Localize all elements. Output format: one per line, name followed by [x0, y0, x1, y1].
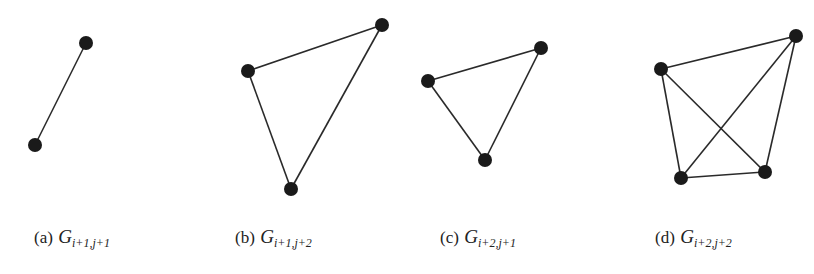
graph-edge: [661, 36, 796, 69]
graph-node: [654, 62, 668, 76]
graph-node: [79, 36, 93, 50]
caption-c-label: (c): [440, 228, 459, 247]
caption-c-symbol: G: [464, 226, 478, 247]
caption-a-subscript: i+1,j+1: [72, 236, 110, 250]
graph-panel-b: [241, 18, 389, 196]
caption-c: (c) Gi+2,j+1: [440, 226, 516, 251]
graph-edge: [291, 25, 382, 189]
graph-panel-d: [654, 29, 803, 185]
caption-b-subscript: i+1,j+2: [274, 236, 312, 250]
graph-node: [241, 64, 255, 78]
caption-d-symbol: G: [680, 226, 694, 247]
caption-b-label: (b): [235, 228, 255, 247]
graph-node: [758, 165, 772, 179]
graph-node: [421, 74, 435, 88]
graph-node: [28, 138, 42, 152]
graph-node: [789, 29, 803, 43]
caption-c-subscript: i+2,j+1: [478, 236, 516, 250]
graph-edge: [428, 48, 541, 81]
caption-a: (a) Gi+1,j+1: [34, 226, 110, 251]
graph-edge: [681, 172, 765, 178]
graph-node: [478, 153, 492, 167]
graph-node: [375, 18, 389, 32]
graph-panel-c: [421, 41, 548, 167]
graph-edge: [248, 25, 382, 71]
graph-panel-a: [28, 36, 93, 152]
caption-b: (b) Gi+1,j+2: [235, 226, 312, 251]
graph-node: [534, 41, 548, 55]
graph-edge: [428, 81, 485, 160]
graph-edge: [35, 43, 86, 145]
caption-d-label: (d): [655, 228, 675, 247]
graph-node: [284, 182, 298, 196]
graph-edge: [485, 48, 541, 160]
graph-edge: [248, 71, 291, 189]
caption-a-symbol: G: [58, 226, 72, 247]
caption-d-subscript: i+2,j+2: [694, 236, 732, 250]
caption-b-symbol: G: [260, 226, 274, 247]
caption-d: (d) Gi+2,j+2: [655, 226, 732, 251]
graph-node: [674, 171, 688, 185]
caption-a-label: (a): [34, 228, 53, 247]
